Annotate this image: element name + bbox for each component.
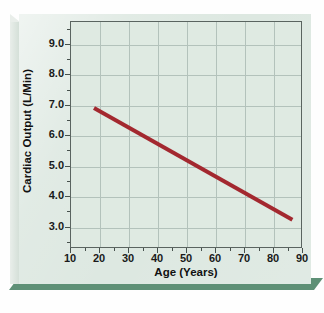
x-tick-minor — [201, 248, 202, 251]
y-tick-minor — [67, 150, 70, 151]
y-tick-major — [65, 74, 70, 75]
x-tick-label: 80 — [260, 252, 286, 264]
x-tick-label: 30 — [115, 252, 141, 264]
x-tick-label: 10 — [57, 252, 83, 264]
y-tick-label: 7.0 — [36, 98, 64, 110]
y-tick-minor — [67, 59, 70, 60]
series-layer — [71, 22, 301, 247]
x-tick-minor — [143, 248, 144, 251]
y-tick-major — [65, 44, 70, 45]
y-tick-label: 5.0 — [36, 159, 64, 171]
y-tick-label: 3.0 — [36, 220, 64, 232]
y-tick-label: 9.0 — [36, 37, 64, 49]
x-tick-label: 90 — [289, 252, 315, 264]
plot-area — [70, 21, 302, 248]
y-tick-major — [65, 105, 70, 106]
y-tick-minor — [67, 29, 70, 30]
x-tick-minor — [85, 248, 86, 251]
x-tick-minor — [172, 248, 173, 251]
y-tick-minor — [67, 120, 70, 121]
figure-root: 102030405060708090 3.04.05.06.07.08.09.0… — [0, 0, 324, 313]
y-tick-major — [65, 196, 70, 197]
y-tick-major — [65, 135, 70, 136]
y-tick-label: 4.0 — [36, 189, 64, 201]
y-tick-minor — [67, 211, 70, 212]
x-tick-label: 40 — [144, 252, 170, 264]
x-tick-minor — [230, 248, 231, 251]
y-tick-major — [65, 227, 70, 228]
x-tick-label: 50 — [173, 252, 199, 264]
x-tick-label: 60 — [202, 252, 228, 264]
y-tick-major — [65, 166, 70, 167]
x-tick-minor — [114, 248, 115, 251]
x-axis-title: Age (Years) — [70, 266, 302, 278]
x-tick-label: 20 — [86, 252, 112, 264]
y-tick-minor — [67, 90, 70, 91]
series-line — [94, 108, 292, 220]
x-tick-label: 70 — [231, 252, 257, 264]
y-axis-title: Cardiac Output (L/Min) — [21, 41, 33, 221]
x-tick-minor — [259, 248, 260, 251]
x-tick-minor — [288, 248, 289, 251]
y-tick-minor — [67, 242, 70, 243]
y-tick-label: 6.0 — [36, 128, 64, 140]
y-tick-minor — [67, 181, 70, 182]
y-tick-label: 8.0 — [36, 67, 64, 79]
